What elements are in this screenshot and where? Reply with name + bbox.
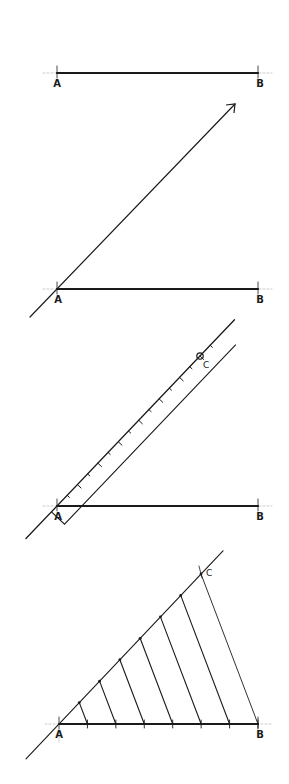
ruler-tick: [98, 463, 102, 466]
ruler-tick: [149, 410, 151, 412]
fig4-label-a: A: [55, 730, 63, 740]
division-point: [78, 701, 81, 704]
ruler-tick: [169, 388, 171, 390]
division-point: [98, 680, 101, 683]
ruler-tick: [139, 420, 143, 423]
ruler-tick: [67, 495, 69, 497]
fig1-label-b: B: [256, 79, 264, 89]
parallel-line: [181, 595, 230, 724]
division-point: [139, 637, 142, 640]
ruler-tick: [180, 377, 184, 380]
ruler-tick: [77, 485, 81, 488]
figure-4-parallel-lines: [26, 551, 272, 759]
fig4-label-c: C: [206, 568, 212, 578]
division-point: [118, 658, 121, 661]
line-cb: [201, 574, 258, 724]
ruler-tick: [190, 367, 192, 369]
ruler-tick: [129, 431, 131, 433]
parallel-line: [140, 638, 173, 724]
ruler-tick: [159, 399, 163, 402]
figure-2-ray-from-a: [30, 104, 272, 317]
ruler-tick: [88, 474, 90, 476]
ruler-tick: [210, 345, 212, 347]
fig4-label-b: B: [256, 730, 264, 740]
ray: [30, 104, 235, 317]
division-point: [179, 594, 182, 597]
fig2-label-b: B: [256, 295, 264, 305]
ruler-tick: [108, 452, 110, 454]
fig3-label-c: C: [203, 360, 209, 370]
parallel-line: [120, 660, 144, 724]
fig1-label-a: A: [53, 79, 61, 89]
figure-1-segment-ab: [43, 66, 272, 78]
fig2-label-a: A: [54, 295, 62, 305]
fig3-label-b: B: [256, 512, 264, 522]
ruler-tick: [118, 442, 122, 445]
diagonal-line: [26, 551, 223, 759]
parallel-line: [100, 681, 116, 724]
construction-diagram: [0, 0, 289, 784]
fig3-label-a: A: [54, 512, 62, 522]
ruler-outline: [51, 345, 235, 525]
division-point: [159, 615, 162, 618]
figure-3-ruler-divisions: [26, 320, 272, 539]
parallel-line: [79, 703, 87, 724]
